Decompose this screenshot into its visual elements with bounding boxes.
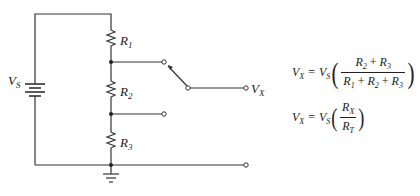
wire-left-top [35, 14, 111, 84]
eq2-numerator: RX [340, 100, 356, 117]
ground-icon [103, 174, 119, 182]
eq1-num-plus: + [367, 55, 380, 69]
switch-terminal-middle [162, 112, 166, 116]
eq1-den-plus-2: + [379, 74, 392, 88]
eq1-den-r3-sub: 3 [399, 81, 403, 90]
label-r2: R2 [120, 85, 132, 101]
eq1-lhs-sub: X [299, 72, 304, 81]
label-r3-sub: 3 [128, 142, 133, 152]
eq2-lhs: VX [292, 110, 304, 126]
eq1-paren-open: ( [332, 58, 339, 88]
resistor-r1-icon [107, 28, 115, 48]
eq2-den-sub: T [350, 126, 354, 135]
eq1-denominator: R1 + R2 + R3 [341, 72, 405, 90]
eq1-num-r3-sub: 3 [387, 62, 391, 71]
equation-1: VX = VS ( R2 + R3 R1 + R2 + R3 ) [292, 55, 416, 90]
eq1-den-r2: R [367, 74, 374, 88]
label-vx-main: V [251, 81, 259, 96]
eq1-numerator: R2 + R3 [353, 55, 392, 72]
label-r3-main: R [120, 135, 128, 150]
eq2-equals: = [308, 110, 315, 125]
switch-common-terminal [186, 86, 190, 90]
eq1-num-r2: R [355, 55, 362, 69]
resistor-r3-icon [107, 130, 115, 150]
label-vs-sub: S [16, 80, 21, 90]
eq2-paren-close: ) [359, 105, 365, 131]
junction-dot-top [109, 60, 113, 64]
label-vs: VS [8, 74, 20, 90]
junction-dot-bottom [109, 163, 113, 167]
circuit-schematic [0, 0, 420, 196]
eq1-rhs-sub: S [326, 72, 330, 81]
eq2-num-sub: X [349, 107, 354, 116]
label-r1: R1 [120, 34, 132, 50]
eq1-paren-close: ) [407, 58, 414, 88]
eq1-rhs-vs: VS [319, 65, 330, 81]
eq1-equals: = [308, 65, 315, 80]
eq2-lhs-sub: X [299, 117, 304, 126]
label-r2-sub: 2 [128, 91, 133, 101]
resistor-r2-icon [107, 79, 115, 99]
output-terminal-vx [244, 86, 248, 90]
eq2-fraction: RX RT [340, 100, 356, 135]
eq2-rhs-vs: VS [319, 110, 330, 126]
eq2-den-r: R [342, 119, 349, 133]
label-r1-main: R [120, 33, 128, 48]
eq2-denominator: RT [340, 117, 356, 135]
label-r2-main: R [120, 84, 128, 99]
battery-icon [25, 84, 45, 96]
eq1-fraction: R2 + R3 R1 + R2 + R3 [341, 55, 405, 90]
label-vx-sub: X [259, 88, 265, 98]
label-r3: R3 [120, 136, 132, 152]
eq1-den-r1: R [343, 74, 350, 88]
eq1-den-r3: R [392, 74, 399, 88]
output-terminal-ground [244, 163, 248, 167]
label-r1-sub: 1 [128, 40, 133, 50]
switch-terminal-top [162, 60, 166, 64]
eq1-den-plus-1: + [355, 74, 368, 88]
eq2-rhs-sub: S [326, 117, 330, 126]
eq1-lhs: VX [292, 65, 304, 81]
eq1-num-r3: R [380, 55, 387, 69]
eq2-paren-open: ( [332, 105, 338, 131]
junction-dot-middle [109, 112, 113, 116]
label-vs-main: V [8, 73, 16, 88]
label-vx: VX [251, 82, 264, 98]
equation-2: VX = VS ( RX RT ) [292, 100, 366, 135]
